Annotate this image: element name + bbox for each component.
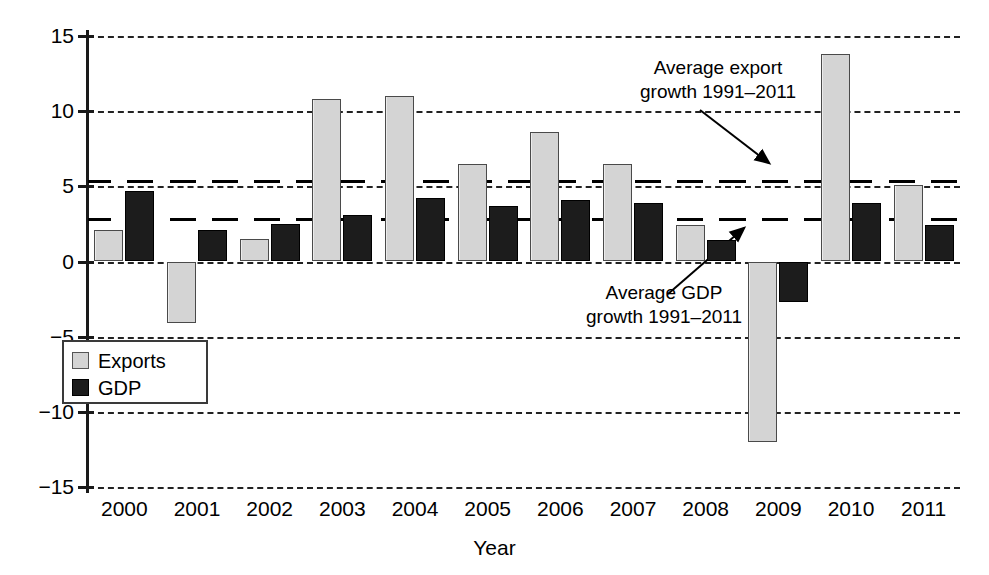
x-tick-label-2006: 2006 <box>524 497 596 521</box>
gridline-0 <box>88 262 960 264</box>
bar-exports-2005 <box>458 164 487 262</box>
x-tick-label-2004: 2004 <box>379 497 451 521</box>
gridline--10 <box>88 412 960 414</box>
bar-gdp-2011 <box>925 225 954 261</box>
legend-label-exports: Exports <box>98 351 166 371</box>
bar-gdp-2008 <box>707 240 736 261</box>
y-tick-label--15: −15 <box>28 476 74 497</box>
bar-exports-2006 <box>530 132 559 261</box>
x-tick-label-2009: 2009 <box>742 497 814 521</box>
bar-chart: 151050−5−10−15 Exports GDP Average expor… <box>0 0 989 575</box>
bar-gdp-2010 <box>852 203 881 262</box>
bar-exports-2011 <box>894 185 923 262</box>
y-tick-10 <box>78 110 94 113</box>
bar-exports-2000 <box>94 230 123 262</box>
bar-exports-2010 <box>821 54 850 261</box>
bar-exports-2007 <box>603 164 632 262</box>
x-tick-label-2001: 2001 <box>161 497 233 521</box>
bar-gdp-2004 <box>416 198 445 261</box>
x-tick-label-2003: 2003 <box>306 497 378 521</box>
bar-gdp-2000 <box>125 191 154 262</box>
bar-gdp-2007 <box>634 203 663 262</box>
legend-item-gdp: GDP <box>72 374 198 401</box>
plot-area <box>88 36 960 487</box>
y-tick-label-15: 15 <box>28 25 74 46</box>
bar-exports-2009 <box>748 262 777 442</box>
bar-gdp-2005 <box>489 206 518 262</box>
y-tick--5 <box>78 336 94 339</box>
bar-exports-2001 <box>167 262 196 324</box>
x-axis-title: Year <box>0 536 989 560</box>
y-tick-0 <box>78 261 94 264</box>
legend-item-exports: Exports <box>72 347 198 374</box>
annotation-average-gdp-growth: Average GDP growth 1991–2011 <box>548 281 780 329</box>
bar-gdp-2003 <box>343 215 372 262</box>
y-tick-5 <box>78 185 94 188</box>
x-tick-label-2005: 2005 <box>452 497 524 521</box>
x-tick-label-2008: 2008 <box>670 497 742 521</box>
y-tick-15 <box>78 35 94 38</box>
legend: Exports GDP <box>62 340 208 404</box>
legend-swatch-exports <box>72 352 89 369</box>
x-tick-label-2011: 2011 <box>888 497 960 521</box>
y-tick--10 <box>78 411 94 414</box>
bar-gdp-2001 <box>198 230 227 262</box>
gridline-15 <box>88 36 960 38</box>
legend-label-gdp: GDP <box>98 378 141 398</box>
x-tick-label-2007: 2007 <box>597 497 669 521</box>
y-tick-label-5: 5 <box>28 175 74 196</box>
x-tick-label-2010: 2010 <box>815 497 887 521</box>
gridline--5 <box>88 337 960 339</box>
bar-gdp-2002 <box>271 224 300 262</box>
gridline--15 <box>88 487 960 489</box>
bar-exports-2004 <box>385 96 414 261</box>
bar-exports-2003 <box>312 99 341 261</box>
bar-exports-2008 <box>676 225 705 261</box>
bar-gdp-2009 <box>779 262 808 303</box>
x-tick-label-2000: 2000 <box>88 497 160 521</box>
annotation-average-export-growth: Average export growth 1991–2011 <box>596 56 840 104</box>
x-tick-label-2002: 2002 <box>234 497 306 521</box>
y-tick--15 <box>78 486 94 489</box>
bar-exports-2002 <box>240 239 269 262</box>
y-axis-labels: 151050−5−10−15 <box>14 0 74 575</box>
x-axis-labels: 2000200120022003200420052006200720082009… <box>88 497 960 527</box>
bar-gdp-2006 <box>561 200 590 262</box>
y-tick-label-10: 10 <box>28 100 74 121</box>
legend-swatch-gdp <box>72 379 89 396</box>
y-tick-label-0: 0 <box>28 251 74 272</box>
